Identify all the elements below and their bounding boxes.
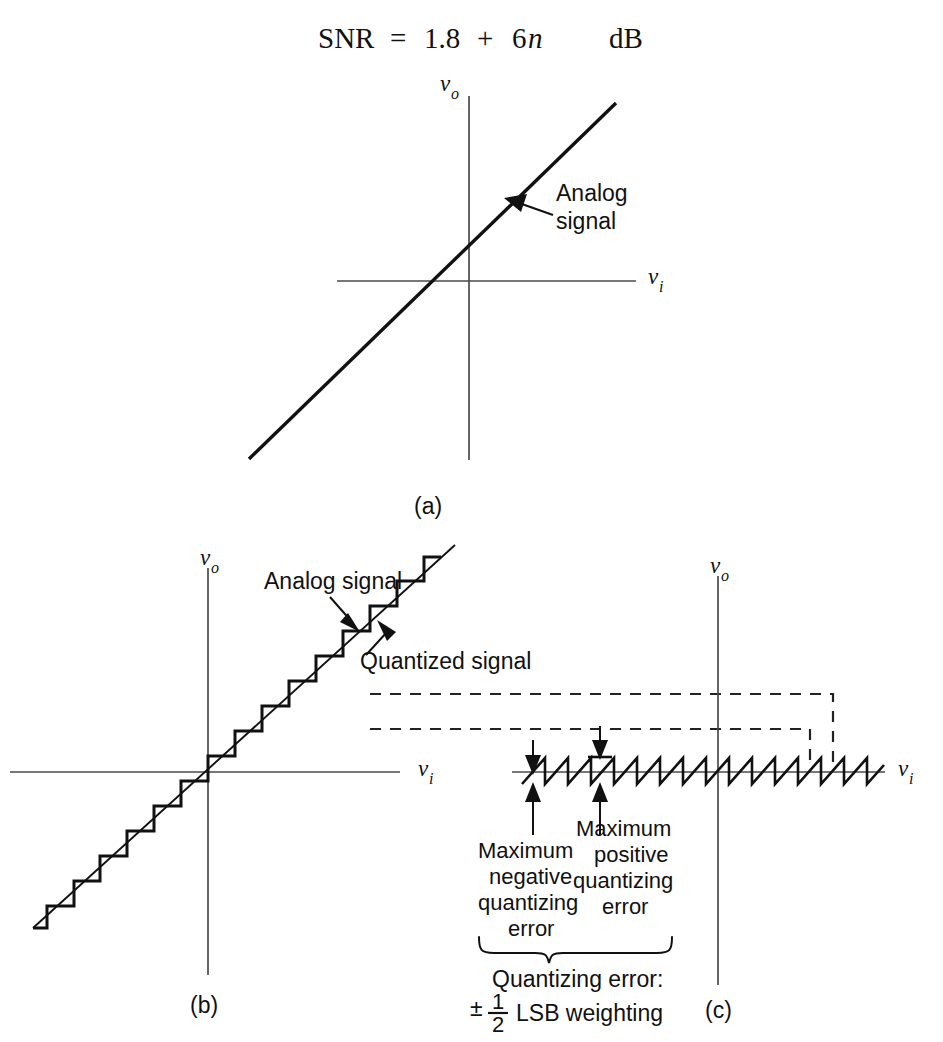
equation-equals: = xyxy=(390,22,406,54)
panel-b-label: (b) xyxy=(190,992,218,1018)
svg-text:o: o xyxy=(211,559,219,576)
panel-b-analog-label: Analog signal xyxy=(264,568,402,594)
svg-text:v: v xyxy=(200,545,211,570)
svg-text:Maximum: Maximum xyxy=(576,816,671,841)
svg-text:v: v xyxy=(440,71,451,96)
panel-c-label: (c) xyxy=(705,997,732,1023)
svg-text:error: error xyxy=(508,916,554,941)
svg-text:i: i xyxy=(429,770,433,787)
svg-text:i: i xyxy=(659,278,663,295)
svg-text:v: v xyxy=(710,553,721,578)
svg-text:Maximum: Maximum xyxy=(478,838,573,863)
svg-text:quantizing: quantizing xyxy=(478,890,578,915)
svg-text:o: o xyxy=(721,567,729,584)
panel-b-quantized-label: Quantized signal xyxy=(360,648,531,674)
equation-coefficient: 6 xyxy=(512,22,527,54)
fraction-numerator: 1 xyxy=(492,989,504,1014)
svg-text:v: v xyxy=(418,756,429,781)
svg-text:v: v xyxy=(648,264,659,289)
panel-a-label: (a) xyxy=(414,493,442,519)
svg-text:v: v xyxy=(898,756,909,781)
svg-text:o: o xyxy=(451,85,459,102)
lsb-weighting-text: LSB weighting xyxy=(516,1000,663,1026)
figure-root: SNR = 1.8 + 6 n dB v o v i Analog signal… xyxy=(0,0,943,1042)
panel-a-annotation-line2: signal xyxy=(556,208,616,234)
quantizing-error-caption: Quantizing error: xyxy=(492,966,663,992)
svg-text:negative: negative xyxy=(489,864,572,889)
equation-plus: + xyxy=(477,22,493,54)
fraction-denominator: 2 xyxy=(492,1012,504,1037)
svg-text:quantizing: quantizing xyxy=(573,868,673,893)
svg-text:positive: positive xyxy=(594,842,669,867)
plus-minus-sign: ± xyxy=(470,995,483,1021)
figure-background xyxy=(0,0,943,1042)
equation-lhs: SNR xyxy=(318,22,375,54)
equation-units: dB xyxy=(609,22,643,54)
equation-constant: 1.8 xyxy=(424,22,460,54)
svg-text:i: i xyxy=(909,770,913,787)
equation-variable: n xyxy=(528,22,543,54)
svg-text:error: error xyxy=(602,894,648,919)
panel-a-annotation-line1: Analog xyxy=(556,180,628,206)
